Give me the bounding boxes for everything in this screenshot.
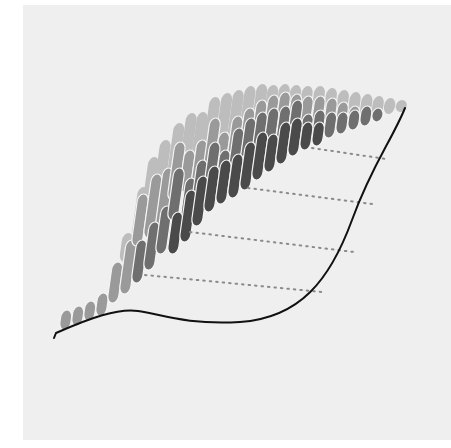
leaf-vein-dotted-line	[312, 148, 386, 159]
leaf-bar-layer-1	[395, 100, 408, 112]
leaf-bars-group	[59, 84, 408, 330]
leaf-vein-dotted-line	[145, 275, 322, 292]
leaf-vein-dotted-line	[190, 232, 354, 252]
leaf-diagram	[0, 0, 451, 448]
leaf-bar-layer-2	[95, 293, 109, 316]
leaf-bar-layer-1	[383, 98, 396, 114]
leaf-vein-dotted-line	[248, 188, 372, 204]
